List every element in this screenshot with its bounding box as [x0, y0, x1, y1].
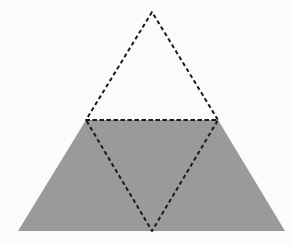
geometry-diagram [0, 0, 291, 244]
